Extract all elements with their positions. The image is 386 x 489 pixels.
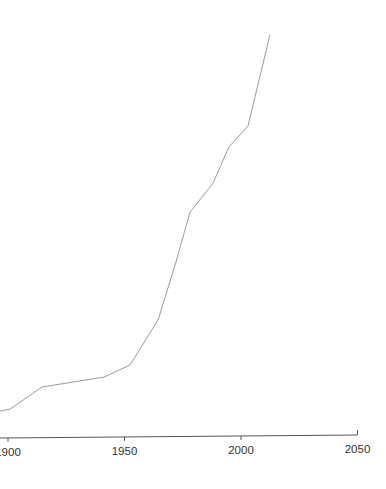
x-axis: 1900195020002050 — [0, 430, 370, 458]
x-tick-label: 2050 — [345, 443, 371, 455]
series-line — [0, 35, 270, 411]
x-tick-label: 1900 — [0, 446, 21, 458]
x-tick-label: 1950 — [112, 445, 138, 457]
line-chart: 1900195020002050 — [0, 0, 386, 489]
x-ticks: 1900195020002050 — [0, 430, 370, 458]
x-axis-line — [0, 435, 357, 438]
plot-area — [0, 35, 270, 411]
x-tick-label: 2000 — [228, 444, 254, 456]
